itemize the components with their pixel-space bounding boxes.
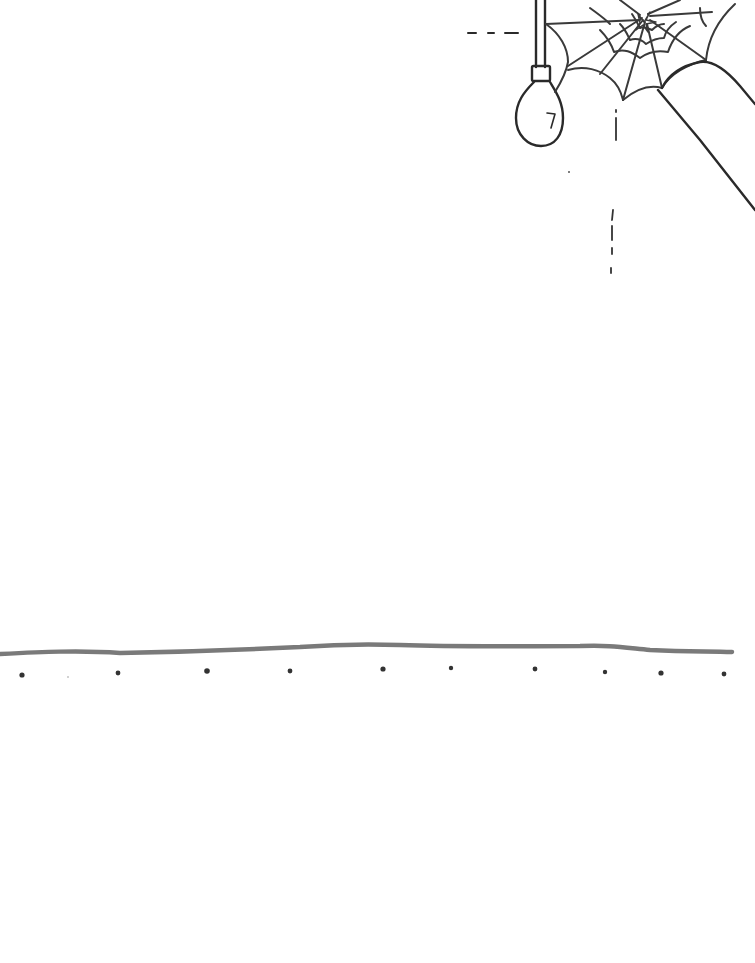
floor-dots xyxy=(19,666,726,678)
light-bulb-icon xyxy=(516,0,563,146)
diagonal-beam xyxy=(658,62,755,210)
sketch-canvas xyxy=(0,0,755,963)
dashed-guide-vertical xyxy=(611,110,616,273)
sketch-illustration xyxy=(0,0,755,963)
ink-speck xyxy=(568,171,570,173)
horizon-line xyxy=(0,644,732,654)
cobweb-icon xyxy=(546,0,735,100)
